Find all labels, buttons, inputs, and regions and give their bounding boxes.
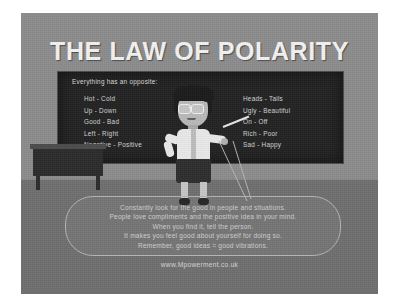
speech-line: People love compliments and the positive…: [66, 212, 340, 221]
desk-body: [33, 149, 103, 176]
shirt-placket: [191, 129, 196, 161]
glasses-lens-right: [191, 104, 204, 114]
poster-image: THE LAW OF POLARITY Everything has an op…: [21, 13, 378, 294]
opposite-pair: On - Off: [243, 116, 290, 128]
opposites-left-column: Hot - Cold Up - Down Good - Bad Left - R…: [84, 93, 142, 151]
website-url: www.Mpowerment.co.uk: [21, 261, 378, 268]
speech-bubble-text: Constantly look for the good in people a…: [66, 203, 340, 250]
opposite-pair: Rich - Poor: [243, 128, 290, 140]
speech-line: It makes you feel good about yourself fo…: [66, 231, 340, 240]
page-title: THE LAW OF POLARITY: [21, 37, 378, 66]
mouth: [187, 118, 196, 120]
speech-line: When you find it, tell the person.: [66, 222, 340, 231]
opposite-pair: Ugly - Beautiful: [243, 105, 290, 117]
speech-line: Constantly look for the good in people a…: [66, 203, 340, 212]
opposite-pair: Hot - Cold: [84, 93, 142, 105]
opposite-pair: Good - Bad: [84, 116, 142, 128]
desk-leg-left: [36, 176, 40, 190]
glasses-bridge: [189, 107, 192, 108]
opposite-pair: Up - Down: [84, 105, 142, 117]
blackboard-heading: Everything has an opposite:: [72, 78, 158, 85]
speech-bubble: Constantly look for the good in people a…: [65, 196, 341, 256]
hair-tuft: [201, 88, 214, 102]
opposite-pair: Left - Right: [84, 128, 142, 140]
glasses-lens-left: [178, 104, 191, 114]
skirt: [176, 159, 211, 183]
opposite-pair: Heads - Tails: [243, 93, 290, 105]
speech-line: Remember, good ideas = good vibrations.: [66, 241, 340, 250]
desk-leg-right: [96, 176, 100, 190]
teacher-desk: [30, 144, 106, 190]
